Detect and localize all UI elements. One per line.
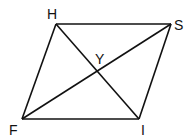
diagram-lines xyxy=(22,24,171,119)
intersection-label-y: Y xyxy=(95,51,105,67)
diagonal-fs xyxy=(22,24,171,119)
edge-fh xyxy=(22,24,56,119)
vertex-label-f: F xyxy=(9,122,18,138)
edge-si xyxy=(139,24,171,119)
diagram-canvas: HSIFY xyxy=(0,0,189,140)
vertex-label-h: H xyxy=(47,6,57,22)
vertex-label-i: I xyxy=(141,122,145,138)
parallelogram-diagram: HSIFY xyxy=(0,0,189,140)
vertex-label-s: S xyxy=(174,17,183,33)
